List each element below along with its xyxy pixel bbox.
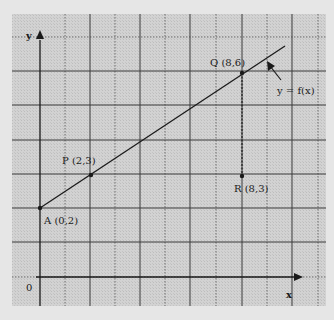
coordinate-graph: y x 0 A (0,2) P (2,3) Q (8,6) R (8,3) y … xyxy=(0,0,334,320)
point-a xyxy=(38,206,42,210)
point-p-label: P (2,3) xyxy=(62,155,96,166)
point-p xyxy=(89,173,93,177)
point-q-label: Q (8,6) xyxy=(210,57,245,68)
grid-paper xyxy=(12,14,326,306)
point-q xyxy=(240,71,244,75)
curve-label: y = f(x) xyxy=(276,85,315,96)
point-r-label: R (8,3) xyxy=(234,183,269,194)
y-axis-label: y xyxy=(25,30,33,41)
origin-label: 0 xyxy=(26,282,32,293)
point-r xyxy=(240,174,244,178)
point-a-label: A (0,2) xyxy=(43,215,78,226)
x-axis-label: x xyxy=(286,289,293,300)
